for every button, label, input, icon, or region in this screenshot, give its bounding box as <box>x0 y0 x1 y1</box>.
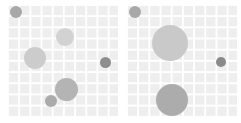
bubble-marker <box>129 6 141 18</box>
bubble-marker <box>45 95 57 107</box>
left-panel <box>8 5 118 117</box>
bubble-marker <box>55 78 78 101</box>
right-panel <box>127 5 237 117</box>
bubble-marker <box>156 84 188 116</box>
bubble-marker <box>216 57 226 67</box>
bubble-marker <box>152 25 188 61</box>
bubble-marker <box>10 6 22 18</box>
bubble-grid-figure <box>0 0 241 123</box>
bubble-marker <box>100 57 111 68</box>
bubble-marker <box>56 28 74 46</box>
bubble-marker <box>24 47 46 69</box>
